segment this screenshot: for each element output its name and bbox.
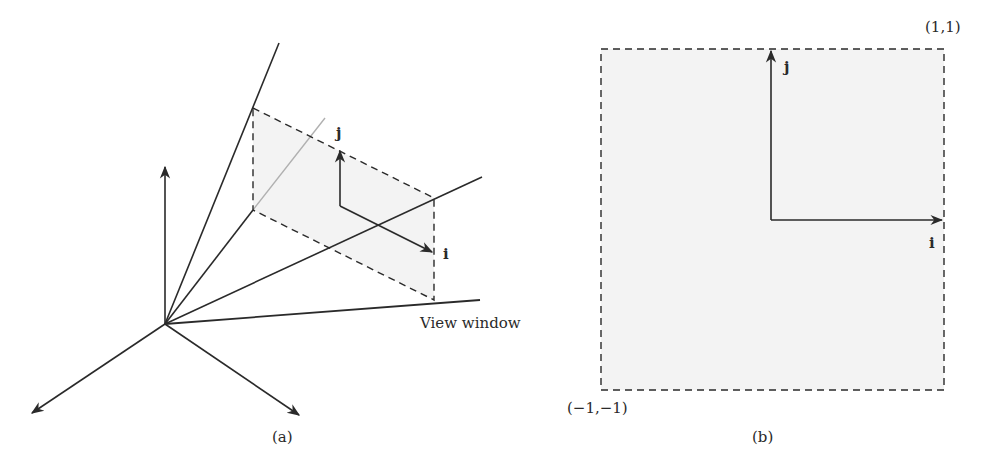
world-z-axis bbox=[165, 324, 299, 415]
frustum-ray-bottom-left bbox=[165, 210, 253, 324]
j-label-a: j bbox=[334, 124, 341, 142]
i-label-b: i bbox=[929, 234, 935, 252]
view-window-label: View window bbox=[419, 314, 521, 332]
figure-a: j i View window (a) bbox=[32, 43, 521, 446]
corner-label-top-right: (1,1) bbox=[925, 18, 961, 36]
j-label-b: j bbox=[782, 58, 789, 76]
figure-b: j i (1,1) (−1,−1) (b) bbox=[567, 18, 961, 446]
corner-label-bottom-left: (−1,−1) bbox=[567, 399, 628, 417]
view-window-diagram: j i View window (a) j i (1,1) (−1,−1) (b… bbox=[0, 0, 985, 468]
caption-a: (a) bbox=[272, 428, 293, 446]
i-label-a: i bbox=[443, 245, 449, 263]
world-x-axis bbox=[32, 324, 165, 413]
caption-b: (b) bbox=[752, 428, 773, 446]
